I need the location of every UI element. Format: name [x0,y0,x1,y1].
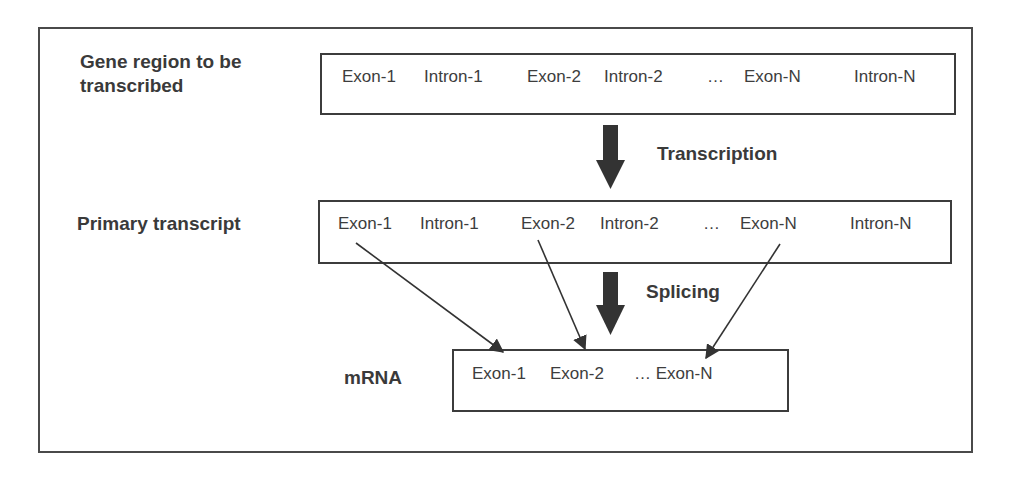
splicing-arrow-icon [596,272,625,335]
arrows-layer [0,0,1012,478]
exon-2-splice-arrow-icon [538,240,585,349]
transcription-arrow-icon [596,125,625,189]
exon-n-splice-arrow-icon [706,244,780,358]
exon-1-splice-arrow-icon [356,243,503,352]
